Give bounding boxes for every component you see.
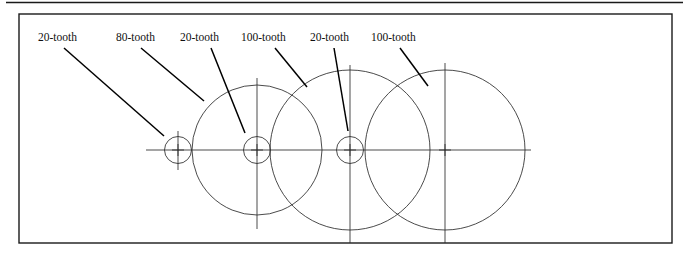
gear-train-diagram: 20-tooth80-tooth20-tooth100-tooth20-toot… [0,0,689,261]
leader-3 [211,48,245,133]
leader-6 [400,48,428,86]
leader-lines-group [64,48,428,136]
label-4: 100-tooth [241,31,286,43]
label-3: 20-tooth [180,31,219,43]
label-2: 80-tooth [116,31,155,43]
label-5: 20-tooth [310,31,349,43]
center-lines-group [178,63,445,243]
leader-5 [334,48,348,131]
gear-labels-group: 20-tooth80-tooth20-tooth100-tooth20-toot… [38,31,416,43]
leader-2 [141,48,204,101]
gear-train-figure: 20-tooth80-tooth20-tooth100-tooth20-toot… [0,0,689,261]
leader-1 [64,48,164,136]
label-1: 20-tooth [38,31,77,43]
label-6: 100-tooth [371,31,416,43]
leader-4 [275,48,307,87]
figure-frame [19,14,672,243]
